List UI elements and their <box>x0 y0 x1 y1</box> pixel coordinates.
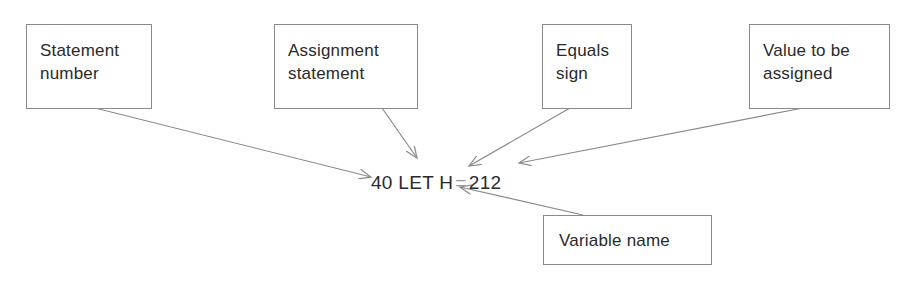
label-line: Assignment <box>288 39 417 62</box>
code-line: 40 LET H=212 <box>371 172 501 194</box>
basic-let-statement-diagram: Statement number Assignment statement Eq… <box>0 0 917 281</box>
equals-sign: = <box>453 172 468 193</box>
label-line: Equals <box>556 39 631 62</box>
arrow-equals-sign <box>469 108 570 166</box>
label-assignment-statement: Assignment statement <box>274 24 418 109</box>
label-statement-number: Statement number <box>26 24 152 109</box>
label-equals-sign: Equals sign <box>542 24 632 109</box>
arrow-value-to-be-assigned <box>519 108 803 163</box>
label-variable-name: Variable name <box>543 215 712 265</box>
label-line: Variable name <box>559 229 711 252</box>
assigned-value: 212 <box>469 172 502 193</box>
label-line: assigned <box>763 62 889 85</box>
label-value-to-be-assigned: Value to be assigned <box>749 24 890 109</box>
label-line: number <box>40 62 151 85</box>
let-keyword: LET <box>398 172 433 193</box>
variable-name: H <box>439 172 453 193</box>
label-line: Value to be <box>763 39 889 62</box>
arrow-assignment-statement <box>382 108 417 158</box>
label-line: sign <box>556 62 631 85</box>
statement-number: 40 <box>371 172 393 193</box>
label-line: Statement <box>40 39 151 62</box>
arrow-statement-number <box>95 108 371 177</box>
label-line: statement <box>288 62 417 85</box>
